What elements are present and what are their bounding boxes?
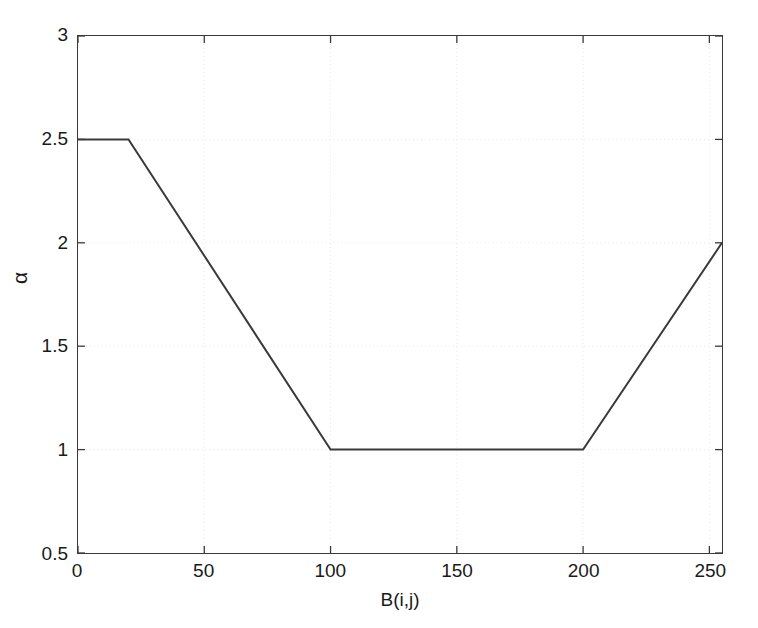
x-tick-label: 200 <box>568 560 600 582</box>
x-axis-title: B(i,j) <box>77 589 723 611</box>
y-tick-label: 0.5 <box>42 543 68 565</box>
figure-canvas: 0.511.522.53 α 050100150200250 B(i,j) <box>0 0 758 628</box>
data-series-alpha <box>78 36 722 553</box>
y-tick-label: 1 <box>57 439 68 461</box>
x-tick-label: 50 <box>193 560 214 582</box>
y-tick-label: 1.5 <box>42 335 68 357</box>
x-tick-label: 250 <box>694 560 726 582</box>
y-tick-label: 2 <box>57 232 68 254</box>
y-tick-label: 3 <box>57 24 68 46</box>
y-tick-label: 2.5 <box>42 128 68 150</box>
series-line-alpha <box>78 139 722 449</box>
x-tick-label: 100 <box>314 560 346 582</box>
y-axis-title: α <box>8 272 32 284</box>
plot-area <box>77 35 723 554</box>
x-tick-label: 0 <box>72 560 83 582</box>
y-axis-tick-labels: 0.511.522.53 <box>0 35 68 554</box>
x-tick-label: 150 <box>441 560 473 582</box>
x-axis-tick-labels: 050100150200250 <box>77 560 723 588</box>
